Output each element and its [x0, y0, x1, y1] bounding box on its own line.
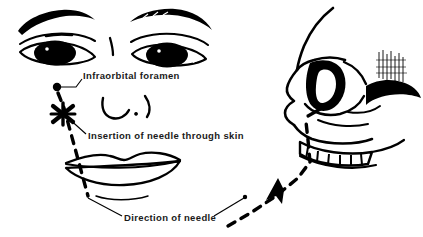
- left-eyebrow-shape: [18, 10, 95, 35]
- nose-left-ala: [102, 98, 129, 119]
- nose-columella-dot: [134, 112, 138, 116]
- skull-foramen-dot: [320, 104, 325, 109]
- right-iris: [146, 43, 188, 68]
- right-eyebrow-shape: [130, 9, 212, 30]
- infraorbital-nerve-block-figure: Infraorbital foramen Insertion of needle…: [0, 0, 423, 237]
- direction-leader-tip: [243, 195, 247, 199]
- upper-lip: [66, 153, 180, 163]
- label-direction-of-needle: Direction of needle: [124, 213, 216, 223]
- temporal-hatching: [376, 50, 407, 82]
- glabella-line: [110, 38, 113, 55]
- illustration-canvas: [0, 0, 423, 237]
- label-insertion-of-needle: Insertion of needle through skin: [88, 131, 244, 141]
- left-iris: [34, 41, 76, 66]
- right-pupil-highlight: [157, 49, 161, 53]
- left-eyelid-crease-dash: [46, 34, 72, 36]
- lateral-skull-view: [214, 8, 421, 226]
- mandible-contour: [372, 140, 404, 152]
- nose-right-ala: [145, 96, 149, 117]
- label-infraorbital-foramen: Infraorbital foramen: [83, 71, 180, 81]
- chin-crease: [96, 196, 148, 200]
- direction-leader-line-right: [214, 198, 244, 216]
- zygomatic-arch: [366, 80, 421, 105]
- direction-leader-line-left: [88, 198, 122, 216]
- maxilla-cheek-line: [318, 120, 368, 126]
- frontal-face-view: [18, 9, 212, 216]
- nasal-bone-contour: [285, 70, 297, 125]
- orbit-rim-lateral: [344, 62, 366, 84]
- left-pupil-highlight: [45, 47, 49, 51]
